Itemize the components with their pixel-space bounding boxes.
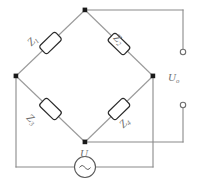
output-top-lead bbox=[85, 10, 183, 49]
open-terminal-icon bbox=[180, 49, 185, 54]
ac-source[interactable] bbox=[75, 157, 96, 178]
source-voltage-label: U bbox=[80, 148, 88, 159]
output-terminal-positive[interactable] bbox=[180, 49, 185, 54]
junction-dot-icon-bottom bbox=[83, 140, 88, 145]
junction-dot-icon-top bbox=[83, 8, 88, 13]
open-terminal-icon bbox=[180, 102, 185, 107]
output-voltage-label-text: U bbox=[168, 71, 176, 83]
output-voltage-label-subscript: o bbox=[176, 77, 179, 84]
junction-dot-icon-left bbox=[14, 74, 19, 79]
output-bottom-lead bbox=[85, 108, 183, 142]
impedance-z1[interactable] bbox=[39, 31, 62, 54]
impedance-z3[interactable] bbox=[39, 97, 62, 120]
resistor-box-icon bbox=[39, 31, 62, 54]
output-voltage-label: Uo bbox=[168, 72, 179, 83]
junction-dot-icon-right bbox=[151, 74, 156, 79]
circuit-diagram: Z1 Z2 Z3 Z4 U Uo bbox=[0, 0, 200, 185]
resistor-box-icon bbox=[39, 97, 62, 120]
bridge-branches bbox=[16, 10, 153, 142]
circuit-canvas bbox=[0, 0, 200, 185]
source-voltage-label-text: U bbox=[80, 147, 88, 159]
output-terminal-negative[interactable] bbox=[180, 102, 185, 107]
